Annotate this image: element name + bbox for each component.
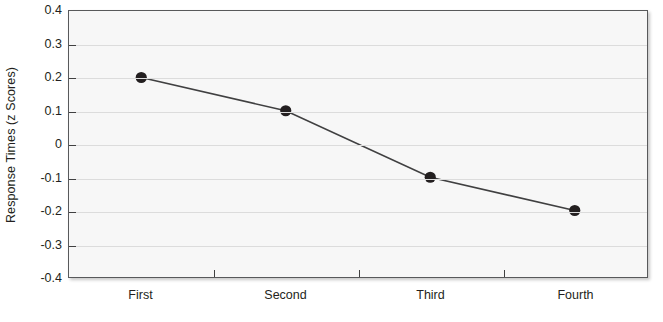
y-axis-tick-mark xyxy=(69,45,76,46)
y-axis-tick-mark xyxy=(69,179,76,180)
x-axis-tick-mark xyxy=(214,270,215,277)
y-axis-tick-labels: 0.40.30.20.10-0.1-0.2-0.3-0.4 xyxy=(14,0,62,322)
x-axis-tick-label: Third xyxy=(416,288,444,302)
x-axis-tick-mark xyxy=(359,270,360,277)
gridline xyxy=(69,246,647,247)
x-axis-tick-label: Fourth xyxy=(557,288,593,302)
gridline xyxy=(69,112,647,113)
y-axis-tick-mark xyxy=(69,112,76,113)
gridline xyxy=(69,78,647,79)
y-axis-tick-label: 0.4 xyxy=(16,3,62,17)
y-axis-tick-label: -0.1 xyxy=(16,171,62,185)
y-axis-tick-label: -0.2 xyxy=(16,204,62,218)
gridline xyxy=(69,179,647,180)
y-axis-tick-mark xyxy=(69,78,76,79)
gridline xyxy=(69,212,647,213)
plot-area xyxy=(68,10,648,278)
y-axis-tick-mark xyxy=(69,212,76,213)
gridline xyxy=(69,45,647,46)
x-axis-tick-mark xyxy=(504,270,505,277)
data-point-marker xyxy=(425,172,436,183)
y-axis-tick-label: 0.3 xyxy=(16,37,62,51)
x-axis-tick-label: Second xyxy=(264,288,306,302)
series-line xyxy=(141,78,575,211)
y-axis-tick-label: -0.4 xyxy=(16,271,62,285)
y-axis-tick-mark xyxy=(69,246,76,247)
plot-inner xyxy=(69,11,647,277)
y-axis-tick-mark xyxy=(69,145,76,146)
line-chart: Response Times (z Scores) 0.40.30.20.10-… xyxy=(0,0,663,322)
y-axis-tick-label: 0.1 xyxy=(16,104,62,118)
data-point-marker xyxy=(569,205,580,216)
x-axis-tick-label: First xyxy=(128,288,152,302)
y-axis-tick-label: -0.3 xyxy=(16,238,62,252)
gridline xyxy=(69,145,647,146)
y-axis-tick-label: 0.2 xyxy=(16,70,62,84)
y-axis-tick-label: 0 xyxy=(16,137,62,151)
series-layer xyxy=(69,11,647,277)
